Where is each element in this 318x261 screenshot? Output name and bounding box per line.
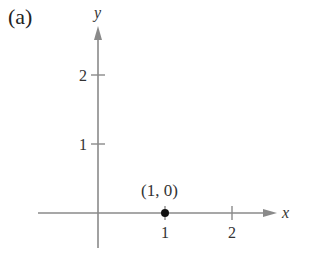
x-tick-label-1: 1 (161, 224, 169, 241)
x-tick-label-2: 2 (228, 224, 236, 241)
x-axis-label: x (281, 204, 289, 221)
y-axis-label: y (92, 4, 102, 22)
y-tick-label-1: 1 (79, 136, 87, 153)
y-tick-label-2: 2 (79, 67, 87, 84)
point-label: (1, 0) (141, 181, 178, 200)
y-axis-arrow-icon (94, 26, 102, 40)
coordinate-plane: y x 2 1 1 2 (1, 0) (0, 0, 318, 261)
x-axis-arrow-icon (263, 209, 277, 217)
point-marker (161, 209, 169, 217)
